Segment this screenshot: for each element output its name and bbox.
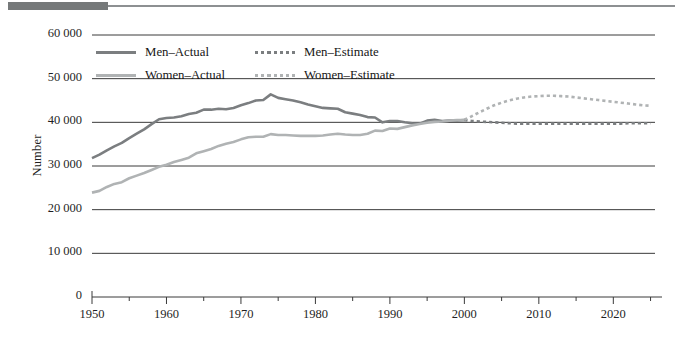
- y-axis-tick-label: 60 000: [20, 26, 82, 41]
- legend-entry-women_actual: Women–Actual: [96, 67, 225, 84]
- legend-entry-men_actual: Men–Actual: [96, 44, 225, 61]
- legend-swatch-men_actual: [96, 47, 136, 59]
- legend-entry-men_estimate: Men–Estimate: [255, 44, 395, 61]
- x-axis-tick-label: 1970: [211, 307, 271, 322]
- legend-line-sample: [96, 74, 136, 77]
- legend-line-sample: [255, 51, 295, 54]
- x-axis-tick-label: 1980: [285, 307, 345, 322]
- legend-label-men_actual: Men–Actual: [145, 45, 209, 60]
- x-axis-tick-label: 2020: [583, 307, 643, 322]
- series-line-women_estimate: [464, 96, 650, 120]
- series-line-women_actual: [92, 120, 464, 192]
- x-axis-tick-label: 2010: [509, 307, 569, 322]
- y-axis-tick-label: 30 000: [20, 157, 82, 172]
- y-axis-tick-label: 0: [20, 288, 82, 303]
- y-axis-tick-label: 20 000: [20, 201, 82, 216]
- x-axis-tick-label: 1960: [136, 307, 196, 322]
- chart-figure: Number 010 00020 00030 00040 00050 00060…: [0, 0, 687, 349]
- x-axis-tick-label: 1950: [62, 307, 122, 322]
- x-axis-tick-label: 1990: [360, 307, 420, 322]
- legend-swatch-men_estimate: [255, 47, 295, 59]
- y-axis-tick-label: 10 000: [20, 244, 82, 259]
- legend-line-sample: [96, 51, 136, 54]
- y-axis-tick-label: 50 000: [20, 70, 82, 85]
- legend-label-women_estimate: Women–Estimate: [304, 68, 395, 83]
- legend-line-sample: [255, 74, 295, 77]
- y-axis-tick-label: 40 000: [20, 113, 82, 128]
- legend-label-women_actual: Women–Actual: [145, 68, 225, 83]
- legend-swatch-women_estimate: [255, 70, 295, 82]
- x-axis-tick-label: 2000: [434, 307, 494, 322]
- legend-swatch-women_actual: [96, 70, 136, 82]
- legend-label-men_estimate: Men–Estimate: [304, 45, 379, 60]
- legend-entry-women_estimate: Women–Estimate: [255, 67, 395, 84]
- chart-legend: Men–ActualMen–EstimateWomen–ActualWomen–…: [96, 44, 395, 84]
